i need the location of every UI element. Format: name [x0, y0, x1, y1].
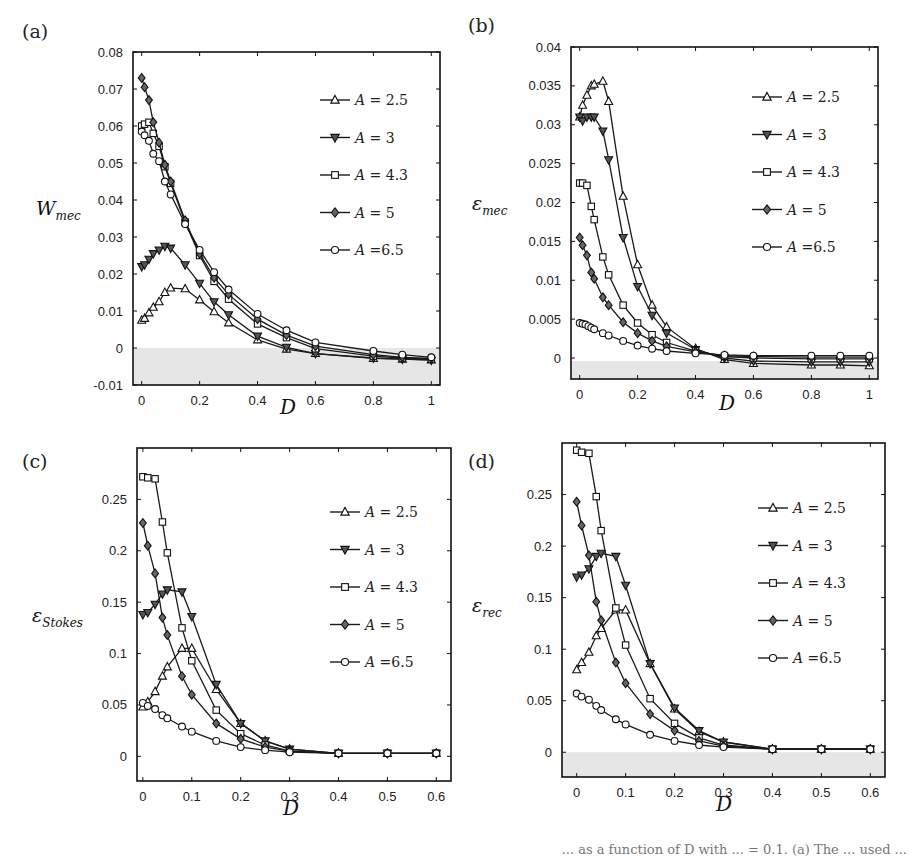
data-point-circle — [428, 354, 435, 361]
data-point-square — [593, 493, 599, 499]
data-point-triangle-down — [225, 312, 233, 319]
legend-label: A = 5 — [363, 617, 405, 633]
data-point-circle — [598, 707, 605, 714]
y-axis-title: εrec — [472, 594, 502, 620]
data-point-square — [145, 475, 151, 481]
x-tick-label: 0.8 — [364, 393, 382, 408]
legend-label: A = 3 — [363, 542, 405, 558]
data-point-square — [591, 216, 597, 222]
data-point-square — [164, 550, 170, 556]
legend-label: A =6.5 — [353, 242, 404, 258]
data-point-circle — [286, 749, 293, 756]
y-tick-label: 0.25 — [527, 487, 552, 502]
y-tick-label: 0.04 — [98, 193, 123, 208]
legend-item: A =6.5 — [752, 239, 836, 255]
series-line — [577, 610, 871, 749]
data-point-circle — [867, 746, 874, 753]
data-point-triangle-up — [579, 101, 587, 108]
data-point-triangle-up — [167, 284, 175, 291]
x-tick-label: 0.4 — [686, 387, 704, 402]
data-point-triangle-up — [619, 192, 627, 199]
y-tick-label: 0.2 — [109, 543, 127, 558]
square-marker-icon — [342, 584, 349, 591]
data-point-triangle-up — [178, 644, 186, 651]
data-point-square — [152, 476, 158, 482]
panel-c: 00.10.20.30.40.50.600.050.10.150.20.25(c… — [22, 448, 451, 820]
panel-label: (a) — [22, 20, 48, 42]
data-point-triangle-up — [196, 296, 204, 303]
data-point-circle — [283, 327, 290, 334]
x-tick-label: 0 — [138, 393, 145, 408]
data-point-triangle-up — [599, 77, 607, 84]
legend-label: A =6.5 — [785, 239, 836, 255]
data-point-circle — [370, 348, 377, 355]
data-point-circle — [837, 352, 844, 359]
y-tick-label: 0.01 — [536, 273, 561, 288]
x-axis-title: D — [282, 796, 299, 820]
data-point-square — [622, 642, 628, 648]
series-line — [142, 122, 432, 359]
data-point-diamond — [146, 96, 153, 105]
y-tick-label: 0.02 — [536, 195, 561, 210]
data-point-circle — [152, 706, 159, 713]
x-tick-label: 0.4 — [763, 785, 781, 800]
y-tick-label: 0.25 — [102, 492, 127, 507]
data-point-square — [647, 695, 653, 701]
data-point-circle — [262, 747, 269, 754]
x-tick-label: 0.2 — [666, 785, 684, 800]
data-point-circle — [144, 703, 151, 710]
data-point-triangle-down — [188, 614, 196, 621]
y-tick-label: 0.1 — [534, 642, 552, 657]
square-marker-icon — [332, 172, 339, 179]
data-point-square — [578, 449, 584, 455]
series-circle — [576, 320, 872, 359]
data-point-circle — [671, 738, 678, 745]
y-tick-label: 0.01 — [98, 304, 123, 319]
x-axis-title: D — [715, 792, 732, 816]
data-point-square — [613, 605, 619, 611]
legend-item: A = 2.5 — [320, 92, 408, 108]
data-point-square — [189, 658, 195, 664]
data-point-square — [600, 254, 606, 260]
data-point-diamond — [598, 616, 605, 625]
x-tick-label: 0.2 — [629, 387, 647, 402]
data-point-diamond — [586, 551, 593, 560]
x-tick-label: 1 — [428, 393, 435, 408]
data-point-circle — [696, 742, 703, 749]
x-tick-label: 0.2 — [191, 393, 209, 408]
data-point-triangle-down — [634, 283, 642, 290]
data-point-diamond — [141, 83, 148, 92]
series-line — [577, 450, 871, 749]
y-tick-label: 0.02 — [98, 267, 123, 282]
x-tick-label: 0.4 — [329, 789, 347, 804]
legend-item: A = 3 — [752, 127, 827, 143]
series-square — [138, 119, 434, 362]
legend-label: A = 5 — [785, 202, 827, 218]
data-point-circle — [167, 191, 174, 198]
data-point-circle — [866, 352, 873, 359]
data-point-triangle-down — [178, 589, 186, 596]
y-tick-label: 0 — [116, 341, 123, 356]
triangle-up-marker-icon — [341, 507, 349, 515]
legend-item: A =6.5 — [320, 242, 404, 258]
y-tick-label: 0.2 — [534, 539, 552, 554]
y-tick-label: 0.05 — [98, 156, 123, 171]
legend-item: A =6.5 — [330, 654, 414, 670]
circle-marker-icon — [341, 658, 348, 665]
data-point-square — [620, 302, 626, 308]
legend-label: A = 2.5 — [363, 504, 418, 520]
y-tick-label: 0.15 — [102, 595, 127, 610]
triangle-down-marker-icon — [763, 131, 771, 139]
data-point-circle — [818, 746, 825, 753]
series-triangle-down — [138, 243, 436, 364]
data-point-diamond — [144, 541, 151, 550]
legend: A = 2.5A = 3A = 4.3A = 5A =6.5 — [320, 92, 408, 258]
data-point-circle — [769, 746, 776, 753]
data-point-square — [588, 203, 594, 209]
data-point-square — [586, 450, 592, 456]
data-point-circle — [634, 342, 641, 349]
data-point-circle — [164, 715, 171, 722]
panel-a: 00.20.40.60.81-0.0100.010.020.030.040.05… — [22, 20, 440, 419]
triangle-up-marker-icon — [331, 95, 339, 103]
triangle-down-marker-icon — [331, 134, 339, 142]
